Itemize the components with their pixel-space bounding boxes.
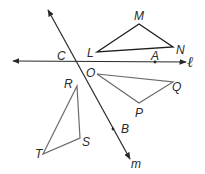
label-a: A [150, 49, 159, 63]
triangle-opq [97, 74, 173, 103]
label-line-m: m [131, 157, 141, 171]
label-m-vertex: M [134, 9, 144, 23]
point-b [112, 128, 115, 131]
geometry-diagram: M N L A ℓ C O Q P R S T B m [0, 0, 205, 174]
label-q: Q [172, 80, 181, 94]
label-line-l: ℓ [187, 54, 193, 70]
label-l-vertex: L [87, 46, 94, 60]
label-r: R [64, 77, 73, 91]
label-n: N [176, 43, 185, 57]
label-s: S [82, 135, 90, 149]
label-b: B [121, 122, 129, 136]
label-c: C [57, 49, 66, 63]
line-l [13, 61, 186, 62]
label-o: O [86, 66, 95, 80]
triangle-rst [43, 86, 80, 154]
triangle-lmn [97, 24, 173, 52]
label-p: P [135, 106, 143, 120]
